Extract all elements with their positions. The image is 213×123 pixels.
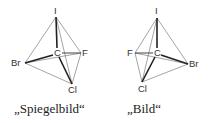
atom-label-left: Br xyxy=(11,57,21,68)
bond-c-cl xyxy=(142,57,155,82)
atom-label-bottom: Cl xyxy=(68,84,77,95)
atom-label-right: Br xyxy=(189,58,199,69)
edge-br-cl xyxy=(142,64,188,82)
atom-label-top: I xyxy=(155,5,158,16)
edge-f-cl xyxy=(72,53,81,84)
bond-c-i xyxy=(56,17,57,48)
edge-f-cl xyxy=(135,53,142,82)
atom-label-right: F xyxy=(82,47,88,58)
molecule-bild: I C F Br Cl „Bild“ xyxy=(127,5,199,116)
atom-label-center: C xyxy=(54,47,61,58)
atom-label-bottom: Cl xyxy=(138,83,147,94)
bond-c-cl xyxy=(59,57,72,84)
caption-spiegelbild: „Spiegelbild“ xyxy=(14,101,85,116)
atom-label-left: F xyxy=(127,47,133,58)
atom-label-center: C xyxy=(154,47,161,58)
atom-label-top: I xyxy=(54,5,57,16)
edge-br-cl xyxy=(25,63,72,84)
edge-br-f xyxy=(25,53,81,63)
edge-i-br xyxy=(157,18,188,64)
enantiomer-diagram: I C Br F Cl „Spiegelbild“ I C F Br Cl „B… xyxy=(0,0,213,123)
caption-bild: „Bild“ xyxy=(127,101,161,116)
molecule-spiegelbild: I C Br F Cl „Spiegelbild“ xyxy=(11,5,88,116)
